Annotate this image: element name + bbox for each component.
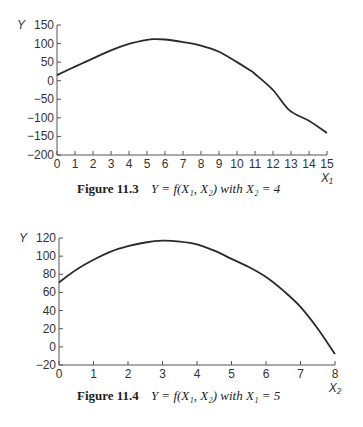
y-tick-label: 0 — [49, 340, 56, 354]
caption-equation: Y = f(X₁, X₂) with X₂ = 4 — [151, 181, 280, 196]
y-tick-label: 80 — [43, 267, 57, 281]
x-axis-label: X₂ — [328, 381, 342, 395]
x-tick-label: 3 — [159, 367, 166, 381]
chart-figure-11-4: 120100806040200−20012345678YX₂ — [0, 0, 363, 427]
x-tick-label: 0 — [56, 367, 63, 381]
x-tick-label: 7 — [297, 367, 304, 381]
data-line — [59, 241, 335, 354]
y-tick-label: 40 — [43, 304, 57, 318]
x-tick-label: 4 — [194, 367, 201, 381]
y-tick-label: −20 — [36, 358, 57, 372]
x-tick-label: 2 — [125, 367, 132, 381]
y-tick-label: 20 — [43, 322, 57, 336]
y-tick-label: 120 — [36, 231, 56, 245]
x-tick-label: 8 — [332, 367, 339, 381]
caption-figure-11-4: Figure 11.4Y = f(X₁, X₂) with X₁ = 5 — [77, 388, 280, 404]
y-axis-label: Y — [19, 231, 28, 245]
x-tick-label: 5 — [228, 367, 235, 381]
caption-label: Figure 11.3 — [77, 181, 139, 196]
x-tick-label: 6 — [263, 367, 270, 381]
caption-equation: Y = f(X₁, X₂) with X₁ = 5 — [151, 388, 280, 403]
y-tick-label: 60 — [43, 285, 57, 299]
caption-figure-11-3: Figure 11.3Y = f(X₁, X₂) with X₂ = 4 — [77, 181, 280, 197]
y-tick-label: 100 — [36, 249, 56, 263]
x-tick-label: 1 — [90, 367, 97, 381]
caption-label: Figure 11.4 — [77, 388, 139, 403]
